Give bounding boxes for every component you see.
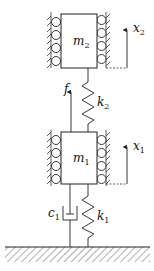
right-wall-m1 (106, 130, 110, 186)
label-x1: x1 (133, 139, 145, 155)
force-f: f (63, 82, 71, 132)
left-wall-m1 (47, 130, 51, 186)
damper-c1 (63, 184, 77, 247)
spring-k1 (82, 184, 94, 247)
mass-m1: m1 (47, 130, 110, 186)
left-wall-m2 (47, 12, 51, 68)
label-f: f (63, 82, 71, 96)
mass-spring-damper-diagram: m2 x2 k2 f (0, 0, 154, 271)
spring-k2 (82, 68, 94, 132)
label-k1: k1 (97, 209, 109, 225)
label-x2: x2 (133, 21, 145, 37)
displacement-x2: x2 (106, 21, 145, 68)
label-c1: c1 (48, 206, 60, 222)
ground (5, 247, 150, 262)
displacement-x1: x1 (106, 139, 145, 184)
label-k2: k2 (97, 95, 109, 111)
mass-m2: m2 (47, 12, 110, 68)
right-wall-m2 (106, 12, 110, 68)
